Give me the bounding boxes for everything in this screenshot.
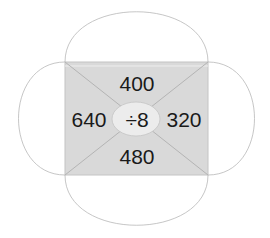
divisor-label: ÷8 (125, 108, 148, 131)
right-arc (208, 62, 255, 175)
division-diagram: 400 640 320 480 ÷8 (0, 0, 270, 238)
bottom-arc (65, 175, 208, 225)
value-right: 320 (166, 108, 201, 131)
top-arc (65, 12, 208, 62)
value-bottom: 480 (119, 145, 154, 168)
value-left: 640 (71, 108, 106, 131)
value-top: 400 (119, 72, 154, 95)
left-arc (19, 62, 66, 175)
